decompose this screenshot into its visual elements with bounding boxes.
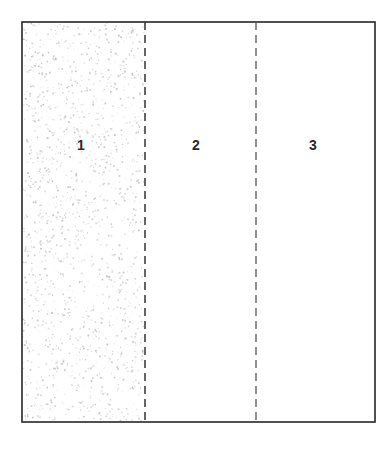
zone-3-label: 3 xyxy=(301,138,325,152)
zone-3-region xyxy=(256,22,375,422)
zone-2-region xyxy=(145,22,256,422)
zone-2-label: 2 xyxy=(184,138,208,152)
zone-1-label: 1 xyxy=(69,138,93,152)
figure-canvas: 1 2 3 xyxy=(0,0,392,454)
schematic-diagram xyxy=(0,0,392,454)
